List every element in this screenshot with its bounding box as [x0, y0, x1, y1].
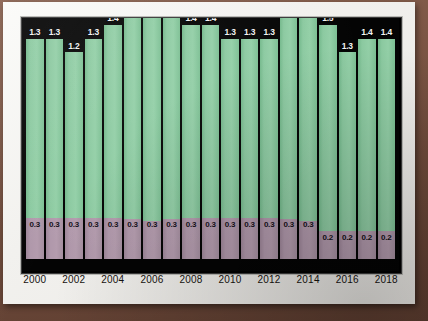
bar-value-label-upper: 1.3: [88, 28, 99, 37]
stacked-bar: [358, 39, 376, 259]
bar-value-label-upper: 1.3: [342, 42, 353, 51]
bar-column: 1.30.3: [260, 18, 278, 271]
bar-segment-upper: [241, 39, 259, 218]
bar-value-label-lower: 0.3: [283, 221, 294, 229]
bar-value-label-upper: 1.3: [224, 28, 235, 37]
x-tick-label: 2014: [297, 274, 320, 285]
bar-value-label-lower: 0.3: [127, 221, 138, 229]
x-tick-label: 2006: [140, 274, 163, 285]
bar-segment-upper: [260, 39, 278, 218]
x-tick-label: 2002: [62, 274, 85, 285]
chart-page: 1.30.31.30.31.20.31.30.31.40.31.50.31.60…: [3, 2, 415, 304]
x-tick-label: 2000: [23, 274, 46, 285]
bar-column: 1.40.2: [358, 18, 376, 271]
bar-column: 1.50.3: [124, 18, 142, 271]
bar-value-label-upper: 1.2: [68, 42, 79, 51]
bar-value-label-upper: 1.4: [107, 18, 118, 23]
bar-column: 1.50.3: [280, 18, 298, 271]
bar-value-label-lower: 0.2: [322, 234, 333, 242]
bar-value-label-upper: 1.4: [185, 18, 196, 23]
bar-segment-upper: [280, 18, 298, 219]
bar-value-label-lower: 0.2: [362, 234, 373, 242]
bar-column: 1.40.3: [182, 18, 200, 271]
bar-value-label-lower: 0.3: [147, 221, 158, 229]
bar-value-label-upper: 1.4: [205, 18, 216, 23]
bar-value-label-lower: 0.3: [69, 221, 80, 229]
bar-column: 1.30.3: [26, 18, 44, 271]
x-tick-label: 2018: [375, 274, 398, 285]
bar-column: 1.20.3: [65, 18, 83, 271]
bar-value-label-upper: 1.3: [29, 28, 40, 37]
bar-value-label-lower: 0.3: [166, 221, 177, 229]
bar-column: 1.30.3: [221, 18, 239, 271]
bar-value-label-upper: 1.4: [361, 28, 372, 37]
bar-column: 1.50.3: [163, 18, 181, 271]
stacked-bar: [339, 52, 357, 259]
bar-segment-upper: [104, 25, 122, 218]
bar-value-label-lower: 0.3: [225, 221, 236, 229]
bar-value-label-lower: 0.3: [49, 221, 60, 229]
bar-column: 1.30.3: [46, 18, 64, 271]
x-tick-label: 2010: [218, 274, 241, 285]
bar-value-label-lower: 0.3: [303, 221, 314, 229]
bar-value-label-lower: 0.3: [108, 221, 119, 229]
bar-value-label-lower: 0.3: [205, 221, 216, 229]
x-tick-label: 2004: [101, 274, 124, 285]
x-tick-label: 2012: [258, 274, 281, 285]
bar-value-label-lower: 0.3: [88, 221, 99, 229]
x-axis-tick-labels: 2000200220042006200820102012201420162018: [22, 274, 399, 296]
bar-value-label-lower: 0.2: [381, 234, 392, 242]
bar-segment-upper: [26, 39, 44, 218]
bar-segment-upper: [65, 52, 83, 217]
bar-segment-upper: [124, 18, 142, 219]
bar-value-label-lower: 0.3: [30, 221, 41, 229]
stacked-bar: [319, 25, 337, 259]
bar-segment-upper: [143, 18, 161, 221]
bar-column: 1.30.3: [241, 18, 259, 271]
bar-value-label-lower: 0.2: [342, 234, 353, 242]
bar-segment-upper: [358, 39, 376, 232]
bar-value-label-upper: 1.3: [264, 28, 275, 37]
plot-area: 1.30.31.30.31.20.31.30.31.40.31.50.31.60…: [22, 18, 399, 271]
bar-segment-upper: [182, 25, 200, 218]
bar-segment-upper: [85, 39, 103, 218]
bar-column: 1.60.3: [299, 18, 317, 271]
x-tick-label: 2016: [336, 274, 359, 285]
bar-column: 1.60.3: [143, 18, 161, 271]
bar-column: 1.50.2: [319, 18, 337, 271]
bar-segment-upper: [221, 39, 239, 218]
bar-column: 1.40.3: [202, 18, 220, 271]
bar-value-label-upper: 1.3: [49, 28, 60, 37]
bar-segment-upper: [319, 25, 337, 232]
bar-value-label-upper: 1.3: [244, 28, 255, 37]
bar-value-label-upper: 1.4: [381, 28, 392, 37]
bar-value-label-lower: 0.3: [186, 221, 197, 229]
bar-segment-upper: [163, 18, 181, 219]
bar-value-label-upper: 1.5: [322, 18, 333, 23]
photo-of-printed-chart: 1.30.31.30.31.20.31.30.31.40.31.50.31.60…: [0, 0, 428, 321]
stacked-bar: [378, 39, 396, 259]
bar-value-label-lower: 0.3: [264, 221, 275, 229]
bar-value-label-lower: 0.3: [244, 221, 255, 229]
bar-column: 1.30.2: [339, 18, 357, 271]
bar-segment-upper: [202, 25, 220, 218]
bar-segment-upper: [339, 52, 357, 231]
bar-segment-upper: [299, 18, 317, 221]
bar-column: 1.40.2: [378, 18, 396, 271]
bar-column: 1.40.3: [104, 18, 122, 271]
bar-segment-upper: [378, 39, 396, 232]
bar-segment-upper: [46, 39, 64, 218]
bar-column: 1.30.3: [85, 18, 103, 271]
x-tick-label: 2008: [179, 274, 202, 285]
bar-group: 1.30.31.30.31.20.31.30.31.40.31.50.31.60…: [22, 18, 399, 271]
